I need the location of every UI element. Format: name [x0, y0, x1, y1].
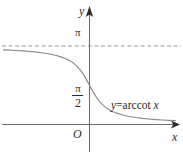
plot-canvas [0, 0, 183, 160]
pi-over-2-denominator: 2 [71, 97, 85, 109]
x-axis-label: x [172, 131, 177, 143]
arccot-graph-figure: y x O π π 2 y=arccot x [0, 0, 183, 160]
pi-over-2-numerator: π [71, 83, 85, 94]
origin-label: O [73, 128, 82, 140]
curve-equation-body: =arccot [116, 99, 153, 111]
curve-equation-x: x [154, 99, 159, 111]
y-axis-label: y [79, 5, 84, 17]
curve-equation-annotation: y=arccot x [111, 100, 159, 112]
y-tick-label-pi-over-2: π 2 [71, 83, 85, 109]
y-tick-label-pi: π [75, 27, 81, 38]
